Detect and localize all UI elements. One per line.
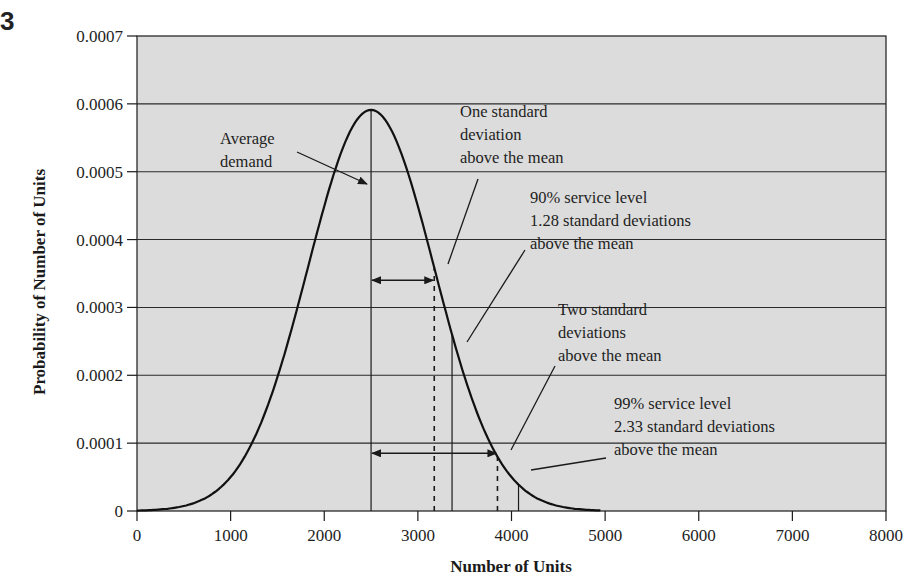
annotation-line: 90% service level (530, 186, 691, 209)
annotation-line: above the mean (614, 438, 775, 461)
annotation-line: above the mean (530, 232, 691, 255)
annotation-line: 2.33 standard deviations (614, 415, 775, 438)
y-axis-ticks: 00.00010.00020.00030.00040.00050.00060.0… (76, 27, 137, 521)
annotation-line: deviation (460, 123, 564, 146)
x-axis-title: Number of Units (450, 557, 572, 577)
annotation-line: above the mean (558, 344, 662, 367)
y-tick-label: 0.0002 (76, 366, 123, 385)
x-tick-label: 7000 (775, 526, 809, 545)
x-tick-label: 6000 (682, 526, 716, 545)
annotation-one-std-dev: One standard deviation above the mean (460, 100, 564, 169)
y-axis-title: Probability of Number of Units (30, 169, 50, 395)
y-tick-label: 0.0006 (76, 95, 123, 114)
annotation-two-std-dev: Two standard deviations above the mean (558, 298, 662, 367)
annotation-line: deviations (558, 321, 662, 344)
y-tick-label: 0.0004 (76, 231, 123, 250)
annotation-line: 99% service level (614, 392, 775, 415)
annotation-line: 1.28 standard deviations (530, 209, 691, 232)
annotation-line: Two standard (558, 298, 662, 321)
normal-distribution-chart: 00.00010.00020.00030.00040.00050.00060.0… (0, 0, 917, 588)
y-tick-label: 0.0001 (76, 434, 123, 453)
y-tick-label: 0.0005 (76, 163, 123, 182)
annotation-line: demand (220, 150, 275, 173)
x-tick-label: 1000 (214, 526, 248, 545)
x-tick-label: 0 (133, 526, 142, 545)
annotation-line: Average (220, 127, 275, 150)
annotation-average-demand: Average demand (220, 127, 275, 173)
x-tick-label: 8000 (869, 526, 903, 545)
x-tick-label: 2000 (307, 526, 341, 545)
annotation-line: above the mean (460, 146, 564, 169)
annotation-90-service-level: 90% service level 1.28 standard deviatio… (530, 186, 691, 255)
y-tick-label: 0 (115, 502, 124, 521)
y-tick-label: 0.0003 (76, 298, 123, 317)
y-tick-label: 0.0007 (76, 27, 123, 46)
x-tick-label: 4000 (495, 526, 529, 545)
x-tick-label: 5000 (588, 526, 622, 545)
annotation-99-service-level: 99% service level 2.33 standard deviatio… (614, 392, 775, 461)
annotation-line: One standard (460, 100, 564, 123)
x-tick-label: 3000 (401, 526, 435, 545)
x-axis-ticks: 010002000300040005000600070008000 (133, 511, 903, 545)
